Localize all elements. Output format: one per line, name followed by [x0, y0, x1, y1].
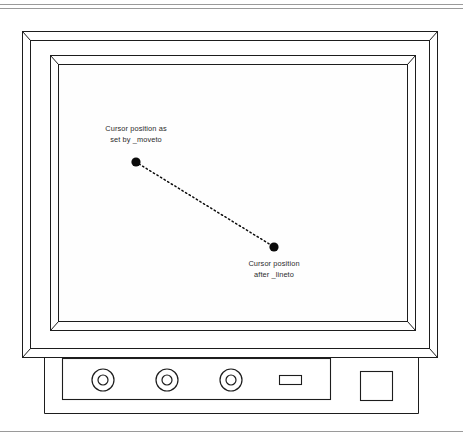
indicator-slot [280, 376, 302, 385]
knob-3[interactable] [220, 369, 242, 391]
screen-bezel [51, 56, 416, 331]
moveto-label-line2: set by _moveto [110, 135, 162, 144]
lineto-label-line1: Cursor position [248, 259, 299, 268]
knob-2[interactable] [156, 369, 178, 391]
figure-root: Cursor position as set by _moveto Cursor… [0, 0, 463, 438]
knob-1[interactable] [92, 369, 114, 391]
power-button[interactable] [361, 372, 393, 401]
moveto-label-line1: Cursor position as [105, 124, 167, 133]
control-panel [63, 359, 331, 400]
moveto-cursor-dot [131, 157, 140, 166]
lineto-cursor-dot [269, 242, 278, 251]
page-rule-top [0, 5, 463, 9]
monitor-illustration: Cursor position as set by _moveto Cursor… [0, 0, 463, 438]
lineto-label-line2: after _lineto [254, 270, 294, 279]
